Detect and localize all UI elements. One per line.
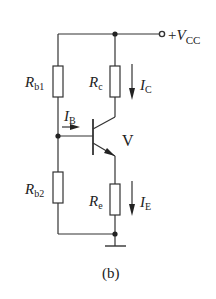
collector-lead xyxy=(93,117,115,129)
circuit-diagram: +VCC Rb1 Rc Rb2 Re IC IE IB V (b) xyxy=(0,0,216,299)
re-label: Re xyxy=(88,193,103,211)
vcc-label: +VCC xyxy=(168,27,200,46)
emitter-arrow-icon xyxy=(104,148,115,156)
rc-label: Rc xyxy=(88,74,103,92)
ic-arrow-icon xyxy=(129,88,135,100)
ib-label: IB xyxy=(63,108,76,126)
ie-arrow-icon xyxy=(129,204,135,216)
ic-label: IC xyxy=(139,77,152,95)
ie-label: IE xyxy=(139,194,151,212)
junction-dot-ground xyxy=(112,231,117,236)
transistor-label: V xyxy=(122,132,134,149)
junction-dot-top xyxy=(112,31,117,36)
resistor-rb1 xyxy=(53,66,63,97)
figure-caption: (b) xyxy=(102,265,120,282)
rb2-label: Rb2 xyxy=(24,181,44,199)
resistor-rc xyxy=(110,66,120,97)
resistor-re xyxy=(110,184,120,215)
junction-dot-base xyxy=(55,133,60,138)
vcc-terminal xyxy=(159,31,164,36)
rb1-label: Rb1 xyxy=(24,74,44,92)
resistor-rb2 xyxy=(53,172,63,203)
